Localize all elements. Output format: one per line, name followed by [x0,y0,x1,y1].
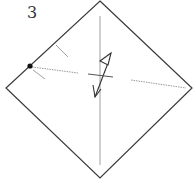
diagram-canvas [0,0,193,180]
origami-diagram: 3 [0,0,193,180]
paper-outline [6,1,192,178]
reference-dot-icon [27,63,32,68]
